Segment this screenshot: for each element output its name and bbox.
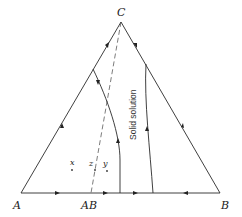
vertex-label-a: A: [12, 199, 21, 212]
arrow-icon: [183, 191, 188, 195]
vertex-label-b: B: [220, 199, 229, 212]
arrow-icon: [133, 43, 137, 48]
vertex-label-c: C: [117, 6, 126, 19]
point-y: [106, 170, 108, 172]
ternary-phase-diagram: C A B AB x z y Solid solution: [0, 0, 242, 217]
arrow-icon: [116, 138, 120, 143]
region-label-solid-solution: Solid solution: [128, 89, 138, 140]
arrow-icon: [55, 191, 60, 195]
point-label-x: x: [70, 158, 75, 167]
point-label-y: y: [102, 159, 108, 168]
arrow-icon: [133, 191, 138, 195]
compound-label-ab: AB: [80, 199, 97, 212]
point-z: [94, 169, 96, 171]
arrow-icon: [105, 42, 109, 48]
point-label-z: z: [88, 159, 94, 168]
arrow-icon: [103, 191, 108, 195]
arrow-icon: [145, 126, 149, 131]
boundary-curve-left: [93, 69, 120, 193]
point-x: [71, 169, 73, 171]
